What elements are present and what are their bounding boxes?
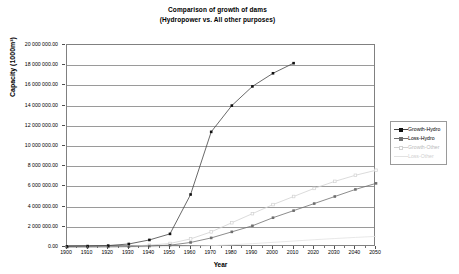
x-tick-label: 2010 [287,249,299,255]
x-tick-label: 1910 [81,249,93,255]
y-tick-mark [62,246,65,247]
y-tick-mark [62,145,65,146]
data-point-marker [313,202,316,205]
y-tick-label: 4 000 000.00 [28,203,58,209]
y-tick-label: 18 000 000.00 [25,61,58,67]
data-point-marker [251,85,254,88]
legend-label: Loss-Hydro [408,134,435,143]
legend-label: Growth-Other [408,143,439,152]
x-minor-tick-mark [241,246,242,248]
y-tick-label: 6 000 000.00 [28,182,58,188]
x-tick-label: 1950 [163,249,175,255]
x-minor-tick-mark [262,246,263,248]
y-tick-mark [62,64,65,65]
legend-swatch-icon [394,143,408,152]
data-point-marker [210,131,213,134]
x-minor-tick-mark [282,246,283,248]
legend-label: Loss-Other [408,152,434,161]
legend-item-growth-other[interactable]: Growth-Other [394,143,444,152]
legend-marker-icon [399,128,403,132]
data-point-marker [354,174,357,177]
y-tick-label: 20 000 000.00 [25,41,58,47]
x-minor-tick-mark [138,246,139,248]
y-tick-label: 16 000 000.00 [25,81,58,87]
series-loss-hydro [66,182,378,248]
y-tick-mark [62,165,65,166]
data-point-marker [354,188,357,191]
y-tick-mark [62,185,65,186]
x-tick-label: 1970 [204,249,216,255]
x-tick-label: 2020 [307,249,319,255]
data-point-marker [272,216,275,219]
legend-swatch-icon [394,125,408,134]
x-tick-label: 2000 [266,249,278,255]
data-point-marker [272,203,275,206]
chart-legend: Growth-HydroLoss-HydroGrowth-OtherLoss-O… [390,121,447,165]
legend-line [394,156,408,157]
series-growth-hydro [66,62,295,248]
y-tick-label: 8 000 000.00 [28,162,58,168]
plot-area [66,44,375,246]
data-point-marker [148,239,151,242]
chart-title: Comparison of growth of dams (Hydropower… [60,5,375,24]
legend-marker-icon [399,137,403,141]
data-point-marker [292,209,295,212]
chart-title-line2: (Hydropower vs. All other purposes) [60,15,375,25]
legend-item-loss-hydro[interactable]: Loss-Hydro [394,134,444,143]
data-point-marker [251,224,254,227]
data-point-marker [375,182,378,185]
y-tick-label: 14 000 000.00 [25,102,58,108]
x-tick-label: 1980 [225,249,237,255]
data-point-marker [231,231,234,234]
legend-item-loss-other[interactable]: Loss-Other [394,152,444,161]
data-point-marker [210,231,213,234]
x-minor-tick-mark [200,246,201,248]
x-minor-tick-mark [97,246,98,248]
x-minor-tick-mark [159,246,160,248]
chart-title-line1: Comparison of growth of dams [60,5,375,15]
data-point-marker [272,72,275,75]
legend-marker-icon [399,146,403,150]
data-point-marker [231,221,234,224]
data-point-marker [189,241,192,244]
x-minor-tick-mark [221,246,222,248]
data-point-marker [189,238,192,241]
data-point-marker [231,104,234,107]
y-tick-label: 2 000 000.00 [28,223,58,229]
x-tick-label: 2050 [369,249,381,255]
data-point-marker [313,187,316,190]
series-line [67,63,294,246]
series-line [67,170,376,247]
y-tick-mark [62,44,65,45]
y-axis-tick-labels: 0.002 000 000.004 000 000.006 000 000.00… [0,44,62,246]
series-growth-other [66,169,378,248]
chart-container: Comparison of growth of dams (Hydropower… [0,0,459,274]
y-tick-mark [62,84,65,85]
x-minor-tick-mark [76,246,77,248]
x-tick-label: 2030 [328,249,340,255]
y-tick-mark [62,105,65,106]
series-layer [67,45,376,247]
data-point-marker [292,62,295,65]
data-point-marker [251,212,254,215]
data-point-marker [292,195,295,198]
x-tick-label: 1990 [246,249,258,255]
data-point-marker [128,243,131,246]
x-minor-tick-mark [344,246,345,248]
x-minor-tick-mark [118,246,119,248]
x-tick-label: 1900 [60,249,72,255]
x-minor-tick-mark [324,246,325,248]
x-tick-label: 1930 [122,249,134,255]
legend-swatch-icon [394,134,408,143]
data-point-marker [169,233,172,236]
y-tick-label: 12 000 000.00 [25,122,58,128]
x-minor-tick-mark [303,246,304,248]
data-point-marker [334,180,337,183]
y-tick-label: 0.00 [48,243,58,249]
data-point-marker [375,169,378,172]
legend-item-growth-hydro[interactable]: Growth-Hydro [394,125,444,134]
y-tick-mark [62,206,65,207]
y-tick-mark [62,226,65,227]
x-tick-label: 2040 [349,249,361,255]
x-minor-tick-mark [179,246,180,248]
